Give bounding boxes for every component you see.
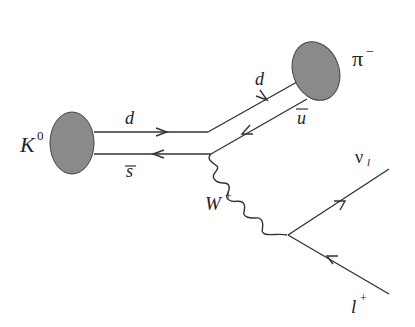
quark-label-u-bar: u <box>297 108 306 128</box>
quark-label-d-right: d <box>255 69 265 89</box>
lepton-line <box>288 235 389 294</box>
kaon-label: K <box>19 132 36 157</box>
feynman-diagram: K 0 d s d u π − W + ν l l + <box>0 0 415 327</box>
neutrino-label: ν <box>355 147 363 167</box>
lepton-superscript: + <box>360 291 367 305</box>
pion-superscript: − <box>366 44 374 59</box>
kaon-superscript: 0 <box>37 128 44 143</box>
arrow-upright-icon <box>256 90 267 100</box>
lepton-label: l <box>351 296 356 317</box>
kaon-blob <box>50 112 94 174</box>
u-antiquark-line <box>211 99 307 154</box>
pion-blob <box>284 35 348 107</box>
neutrino-line <box>288 169 389 235</box>
arrow-upright-icon <box>334 201 345 210</box>
pion-label: π <box>352 46 363 71</box>
d-quark-line-right <box>208 82 297 132</box>
quark-label-d-left: d <box>125 108 135 128</box>
w-boson-label: W <box>205 193 223 214</box>
quark-label-s-bar: s <box>126 161 133 181</box>
neutrino-subscript: l <box>367 156 370 168</box>
w-boson-superscript: + <box>225 189 232 203</box>
